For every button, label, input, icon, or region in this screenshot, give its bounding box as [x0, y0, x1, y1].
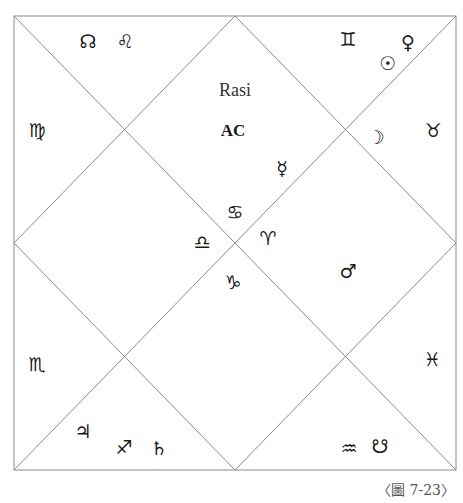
- venus-icon: ♀: [401, 33, 415, 52]
- saturn-icon: ♄: [150, 439, 167, 458]
- taurus-icon: ♉: [424, 121, 441, 140]
- pisces-icon: ♓: [423, 350, 440, 369]
- chart-title: Rasi: [219, 80, 251, 101]
- cancer-icon: ♋: [226, 203, 243, 222]
- capricorn-icon: ♑: [224, 273, 241, 292]
- aquarius-icon: ♒: [340, 439, 357, 458]
- sagittarius-icon: ♐: [115, 438, 132, 457]
- libra-icon: ♎: [193, 233, 210, 252]
- mars-icon: ♂: [339, 262, 356, 281]
- figure-caption: 〈圖 7-23〉: [377, 479, 455, 499]
- scorpio-icon: ♏: [28, 355, 45, 374]
- virgo-icon: ♍: [28, 121, 45, 140]
- gemini-icon: ♊: [339, 30, 356, 49]
- moon-icon: ☽: [367, 128, 384, 147]
- ascendant-label: AC: [221, 121, 246, 141]
- sun-icon: ☉: [379, 54, 396, 73]
- jupiter-icon: ♃: [74, 422, 91, 441]
- leo-icon: ♌: [116, 32, 133, 51]
- rahu-icon: ☊: [80, 32, 97, 51]
- ketu-icon: ☋: [372, 437, 389, 456]
- mercury-icon: ☿: [276, 159, 288, 178]
- aries-icon: ♈: [259, 229, 276, 248]
- rasi-chart-grid: [0, 0, 463, 503]
